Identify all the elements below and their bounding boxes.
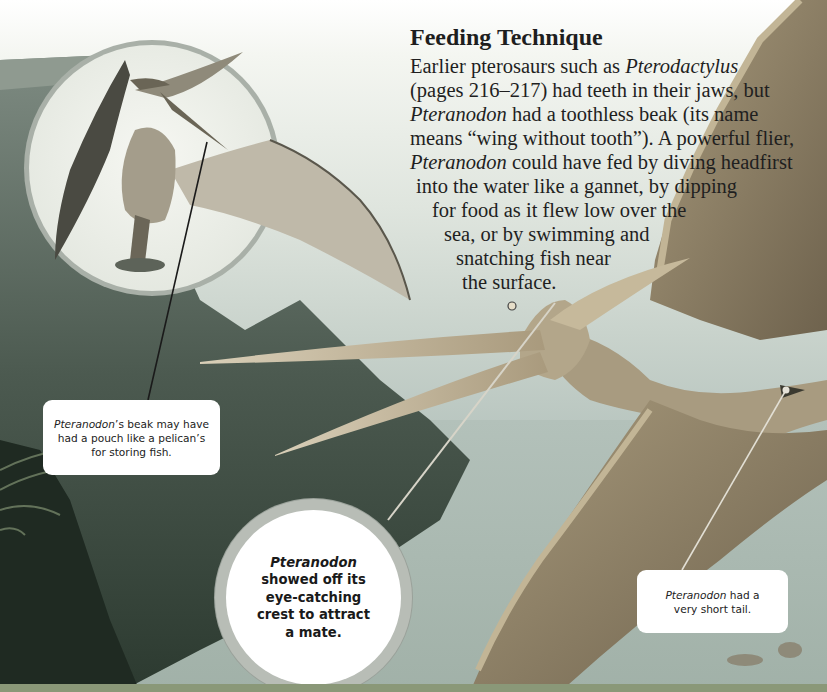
tail-marker: [783, 387, 790, 394]
body-text-fragment: into the water like a gannet, by dipping: [416, 175, 737, 197]
inset-illustration: [24, 40, 410, 300]
body-text-fragment: sea, or by swimming and: [444, 223, 650, 245]
body-line: (pages 216–217) had teeth in their jaws,…: [410, 79, 770, 102]
body-text-fragment: had a toothless beak (its name: [507, 103, 759, 125]
body-text-fragment: for food as it flew low over the: [432, 199, 686, 221]
species-name: Pteranodon: [410, 103, 507, 125]
body-text-fragment: could have fed by diving headfirst: [507, 151, 793, 173]
body-line: sea, or by swimming and: [444, 223, 650, 246]
callout-short-tail: Pteranodon had a very short tail.: [637, 570, 788, 633]
callout-italic: Pteranodon: [270, 555, 357, 570]
body-line: into the water like a gannet, by dipping: [416, 175, 737, 198]
body-line: the surface.: [462, 271, 556, 294]
body-line: for food as it flew low over the: [432, 199, 686, 222]
eye-icon: [508, 302, 516, 310]
species-name: Pteranodon: [410, 151, 507, 173]
callout-italic: Pteranodon: [665, 589, 726, 601]
callout-beak-pouch: Pteranodon’s beak may have had a pouch l…: [43, 400, 220, 475]
species-name: Pterodactylus: [625, 55, 738, 77]
body-text-fragment: Earlier pterosaurs such as: [410, 55, 625, 77]
body-text-fragment: snatching fish near: [456, 247, 611, 269]
callout-beak-pouch-text: Pteranodon’s beak may have had a pouch l…: [51, 417, 212, 459]
page-spread: Feeding Technique Earlier pterosaurs suc…: [0, 0, 827, 692]
callout-crest-text: Pteranodon showed off its eye-catching c…: [254, 554, 374, 642]
section-heading: Feeding Technique: [410, 24, 603, 51]
callout-rest: showed off its eye-catching crest to att…: [257, 572, 370, 640]
body-line: Pteranodon had a toothless beak (its nam…: [410, 103, 758, 126]
body-line: Earlier pterosaurs such as Pterodactylus: [410, 55, 738, 78]
body-text-fragment: means “wing without tooth”). A powerful …: [410, 127, 794, 149]
body-line: means “wing without tooth”). A powerful …: [410, 127, 794, 150]
callout-italic: Pteranodon: [54, 418, 115, 430]
body-text-fragment: (pages 216–217) had teeth in their jaws,…: [410, 79, 770, 101]
body-text-fragment: the surface.: [462, 271, 556, 293]
callout-short-tail-text: Pteranodon had a very short tail.: [663, 588, 763, 616]
body-line: Pteranodon could have fed by diving head…: [410, 151, 793, 174]
footer-band: [0, 684, 827, 692]
callout-crest-bubble: Pteranodon showed off its eye-catching c…: [226, 510, 401, 685]
body-line: snatching fish near: [456, 247, 611, 270]
